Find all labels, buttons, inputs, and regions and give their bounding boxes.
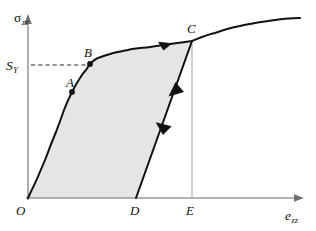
stress-strain-figure: σzz ezz SY O A B C D E bbox=[0, 0, 316, 231]
y-axis-subscript: zz bbox=[21, 18, 29, 27]
point-label-a: A bbox=[65, 75, 74, 90]
x-axis-subscript: zz bbox=[291, 216, 299, 225]
yield-stress-label: SY bbox=[6, 58, 19, 75]
x-axis-arrowhead bbox=[294, 194, 304, 202]
yield-stress-symbol: S bbox=[6, 58, 13, 73]
x-axis-symbol: e bbox=[285, 208, 291, 223]
plot-svg: σzz ezz SY O A B C D E bbox=[0, 0, 316, 231]
point-label-e: E bbox=[185, 203, 194, 218]
y-axis-label: σzz bbox=[14, 10, 29, 27]
point-label-d: D bbox=[129, 203, 140, 218]
point-label-b: B bbox=[84, 45, 92, 60]
point-label-c: C bbox=[187, 21, 196, 36]
x-axis-label: ezz bbox=[285, 208, 299, 225]
yield-stress-subscript: Y bbox=[13, 66, 19, 75]
point-marker-b bbox=[87, 61, 93, 67]
origin-label: O bbox=[16, 203, 26, 218]
